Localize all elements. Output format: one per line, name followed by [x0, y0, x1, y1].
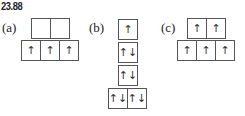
part-c-label: (c) — [161, 20, 175, 36]
part-b-orbital-row-2: ↑↓ — [118, 42, 138, 63]
part-a-upper-orbitals — [31, 18, 70, 39]
part-b-orbital-row-1: ↑ — [118, 19, 138, 40]
orbital-box: ↑↓ — [118, 42, 138, 63]
part-a-lower-orbitals: ↑ ↑ ↑ — [21, 40, 79, 61]
orbital-box: ↑↓ — [108, 88, 128, 109]
orbital-box: ↑ — [187, 18, 207, 39]
orbital-box: ↑ — [40, 40, 60, 61]
orbital-box: ↑↓ — [118, 65, 138, 86]
part-c-lower-orbitals: ↑ ↑ ↑ — [177, 40, 235, 61]
orbital-box: ↑ — [21, 40, 41, 61]
orbital-box: ↑↓ — [127, 88, 147, 109]
part-c-upper-orbitals: ↑ ↑ — [187, 18, 226, 39]
orbital-box: ↑ — [196, 40, 216, 61]
orbital-box — [50, 18, 70, 39]
part-b-orbital-row-3: ↑↓ — [118, 65, 138, 86]
problem-number: 23.88 — [1, 0, 22, 12]
orbital-box: ↑ — [206, 18, 226, 39]
part-a-label: (a) — [2, 20, 16, 36]
orbital-box — [31, 18, 51, 39]
orbital-box: ↑ — [177, 40, 197, 61]
part-b-label: (b) — [89, 20, 104, 36]
orbital-box: ↑ — [118, 19, 138, 40]
orbital-box: ↑ — [59, 40, 79, 61]
part-b-orbital-row-4: ↑↓ ↑↓ — [108, 88, 147, 109]
orbital-box: ↑ — [215, 40, 235, 61]
